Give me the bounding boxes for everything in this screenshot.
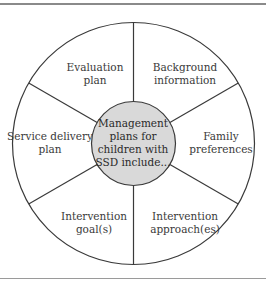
segment-service-delivery-plan: Service delivery plan: [5, 130, 95, 156]
bottom-border-rule: [0, 278, 266, 279]
segment-intervention-approaches: Intervention approach(es): [140, 210, 230, 236]
center-label: Management plans for children with SSD i…: [93, 117, 173, 169]
segment-intervention-goals: Intervention goal(s): [49, 210, 139, 236]
segment-family-preferences: Family preferences: [176, 130, 266, 156]
segment-background-information: Background information: [140, 61, 230, 87]
segment-evaluation-plan: Evaluation plan: [50, 61, 140, 87]
